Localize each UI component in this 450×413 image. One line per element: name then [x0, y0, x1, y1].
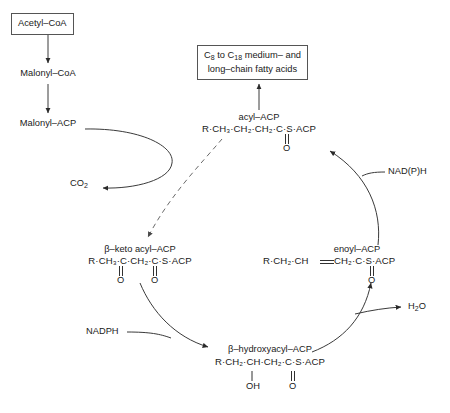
water-h: H [408, 301, 415, 311]
betahydroxy-oxygen: O [289, 381, 296, 393]
node-acyl-acp-name: acyl–ACP [239, 112, 280, 124]
arc-enoyl-to-acyl [330, 151, 379, 245]
betahydroxyacyl-acp-label: β–hydroxyacyl–ACP [228, 344, 312, 354]
fatty-acid-synthesis-diagram: Acetyl–CoA Malonyl–CoA Malonyl–ACP CO2 C… [0, 0, 450, 413]
line-nadph-oxidized-input [362, 172, 385, 176]
node-malonyl-acp: Malonyl–ACP [48, 118, 104, 130]
water-o: O [419, 301, 426, 311]
enoyl-acp-label: enoyl–ACP [334, 244, 381, 254]
acetyl-coa-label: Acetyl–CoA [18, 18, 67, 28]
product-c8-subscript: 8 [211, 54, 215, 61]
water-subscript: 2 [415, 305, 419, 312]
node-betaketo-acyl-acp-formula: R·CH₃·C·CH₂·C·S·ACP [88, 255, 191, 267]
node-nadph: NADPH [86, 326, 119, 338]
node-co2: CO2 [70, 178, 88, 190]
product-line-1: C8 to C18 medium– and [204, 49, 301, 63]
acyl-acp-oxygen: O [283, 143, 290, 155]
node-betaketo-acyl-acp-name: β–keto acyl–ACP [104, 244, 176, 256]
product-medium-and: medium– and [242, 50, 301, 60]
co2-subscript: 2 [84, 182, 88, 189]
node-betahydroxyacyl-acp-name: β–hydroxyacyl–ACP [228, 344, 312, 356]
malonyl-coa-label: Malonyl–CoA [20, 68, 75, 80]
node-enoyl-acp-formula-right: CH₂·C·S·ACP [334, 255, 395, 267]
product-c18-subscript: 18 [234, 54, 242, 61]
node-betahydroxyacyl-acp-formula: R·CH₂·CH·CH₂·C·S·ACP [215, 356, 325, 368]
node-fatty-acid-products: C8 to C18 medium– and long–chain fatty a… [197, 45, 308, 80]
node-water: H2O [408, 301, 426, 313]
arc-malonylacp-to-co2 [85, 129, 172, 188]
acyl-acp-label: acyl–ACP [239, 112, 280, 122]
betaketo-oxygen-2: O [151, 275, 158, 287]
enoyl-oxygen: O [368, 275, 375, 287]
malonyl-acp-label: Malonyl–ACP [20, 118, 76, 130]
node-malonyl-coa: Malonyl–CoA [48, 68, 103, 80]
product-to-c: to C [215, 50, 235, 60]
betaketo-oxygen-1: O [117, 275, 124, 287]
arc-betaketo-to-betahydroxy [140, 283, 208, 347]
node-enoyl-acp-name: enoyl–ACP [334, 244, 381, 256]
betaketo-acyl-acp-label: β–keto acyl–ACP [104, 244, 176, 254]
arrow-water-output [355, 307, 401, 314]
product-c8: C [204, 50, 211, 60]
node-acetyl-coa: Acetyl–CoA [11, 13, 74, 35]
dashed-arrow-condensation [148, 139, 222, 237]
co2-label: CO [70, 178, 84, 188]
betahydroxy-hydroxyl: OH [246, 381, 260, 393]
product-line-2: long–chain fatty acids [204, 63, 301, 76]
node-acyl-acp-formula: R·CH₃·CH₂·CH₂·C·S·ACP [202, 123, 316, 135]
node-nadph-oxidized: NAD(P)H [388, 166, 427, 178]
arc-betahydroxy-to-enoyl [312, 283, 371, 352]
line-nadph-input [127, 332, 171, 338]
node-enoyl-acp-formula-left: R·CH₂·CH [263, 255, 309, 267]
